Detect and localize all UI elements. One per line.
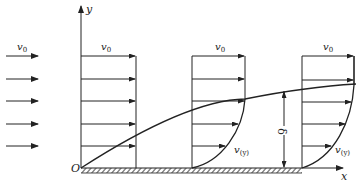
profile-3-velocity-label: v(y) xyxy=(335,145,350,157)
origin-label: O xyxy=(71,163,80,174)
profile-2-top-label: v0 xyxy=(215,42,225,54)
profile-1-top-label: v0 xyxy=(101,42,111,54)
freestream-arrows xyxy=(6,56,38,146)
profile-2-velocity-label: v(y) xyxy=(234,145,249,157)
wall-plate xyxy=(81,168,302,173)
profile-3-top-label: v0 xyxy=(323,42,333,54)
diagram-canvas xyxy=(0,0,360,188)
y-axis-label: y xyxy=(86,4,92,15)
x-axis-label: x xyxy=(341,171,347,182)
thickness-label: δ xyxy=(276,128,287,135)
freestream-label: v0 xyxy=(17,42,27,54)
